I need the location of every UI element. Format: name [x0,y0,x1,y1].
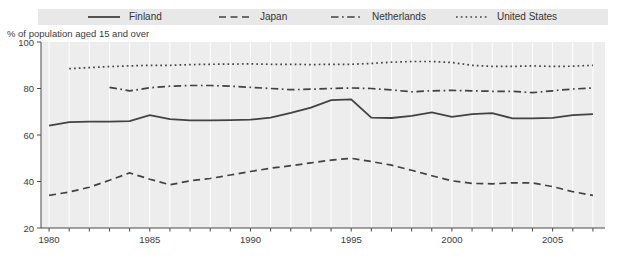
x-axis-tick-label: 2000 [441,234,462,245]
legend-line-sample-netherlands [330,13,364,21]
legend-item-japan: Japan [218,9,287,25]
x-axis-tick-label: 1990 [240,234,261,245]
legend-item-united-states: United States [455,9,557,25]
legend: FinlandJapanNetherlandsUnited States [38,9,608,25]
legend-label-netherlands: Netherlands [372,9,426,25]
legend-line-sample-japan [218,13,252,21]
x-axis-tick-label: 1985 [139,234,160,245]
legend-item-finland: Finland [87,9,162,25]
y-axis-tick-label: 60 [23,130,34,141]
y-axis-tick-label: 80 [23,83,34,94]
legend-item-netherlands: Netherlands [330,9,426,25]
legend-line-sample-united-states [455,13,489,21]
y-axis-tick-label: 40 [23,176,34,187]
legend-label-united-states: United States [497,9,557,25]
axis-note: % of population aged 15 and over [7,28,149,39]
x-axis-tick-label: 1995 [341,234,362,245]
plot-area [41,42,605,228]
x-axis-tick-label: 1980 [38,234,59,245]
legend-label-japan: Japan [260,9,287,25]
chart-svg: 20406080100198019851990199520002005 [0,0,624,265]
legend-line-sample-finland [87,13,121,21]
legend-label-finland: Finland [129,9,162,25]
y-axis-tick-label: 20 [23,223,34,234]
chart-figure: 20406080100198019851990199520002005 Finl… [0,0,624,265]
x-axis-tick-label: 2005 [542,234,563,245]
